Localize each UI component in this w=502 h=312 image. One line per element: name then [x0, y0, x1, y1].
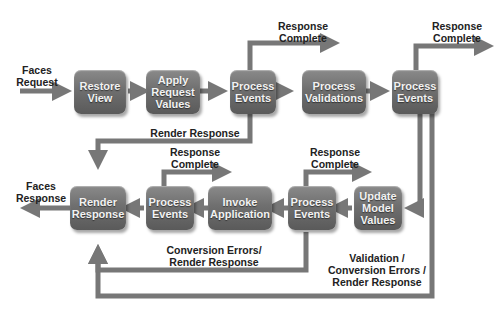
process-events-box-3: Process Events [288, 186, 336, 230]
invoke-application-box: Invoke Application [208, 186, 272, 230]
process-events-box-4: Process Events [146, 186, 194, 230]
restore-view-box: Restore View [74, 70, 126, 114]
response-complete-label-4: Response Complete [300, 146, 370, 170]
response-complete-label-3: Response Complete [160, 146, 230, 170]
process-events-box-2: Process Events [392, 70, 438, 114]
process-validations-box: Process Validations [302, 70, 366, 114]
validation-errors-label: Validation / Conversion Errors / Render … [324, 252, 430, 288]
faces-request-label: Faces Request [14, 64, 60, 88]
jsf-lifecycle-diagram: Faces Request Faces Response Response Co… [0, 0, 502, 312]
response-complete-label-2: Response Complete [422, 20, 492, 44]
render-response-box: Render Response [70, 186, 126, 230]
process-events-box-1: Process Events [230, 70, 276, 114]
conversion-errors-label: Conversion Errors/ Render Response [154, 244, 274, 268]
response-complete-label-1: Response Complete [268, 20, 338, 44]
update-model-values-box: Update Model Values [354, 186, 402, 230]
apply-request-values-box: Apply Request Values [146, 70, 200, 114]
faces-response-label: Faces Response [14, 180, 68, 204]
render-response-path-label: Render Response [140, 127, 250, 139]
